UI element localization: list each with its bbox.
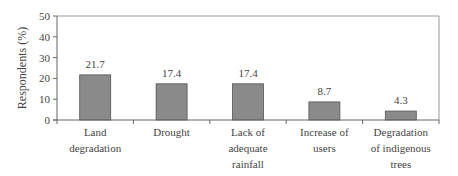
x-category-label-line: degradation	[69, 142, 121, 154]
bar	[385, 111, 416, 120]
y-tick-label: 30	[39, 52, 51, 64]
bar	[156, 84, 187, 120]
x-category-label: Degradationof indigenoustrees	[371, 126, 431, 170]
x-category-label-line: Land	[84, 126, 107, 138]
x-category-label-line: users	[313, 142, 336, 154]
bar-chart: 01020304050 21.717.417.48.74.3 Landdegra…	[0, 0, 458, 176]
bar-value-label: 17.4	[238, 67, 258, 79]
x-category-label-line: Increase of	[300, 126, 349, 138]
x-category-label-line: Lack of	[231, 126, 265, 138]
bar	[80, 75, 111, 120]
x-category-label-line: rainfall	[232, 158, 264, 170]
y-tick-label: 0	[45, 114, 51, 126]
x-category-label: Lack ofadequaterainfall	[228, 126, 267, 170]
bar	[309, 102, 340, 120]
x-category-label-line: adequate	[228, 142, 267, 154]
bars: 21.717.417.48.74.3	[80, 58, 417, 120]
bar-value-label: 21.7	[86, 58, 106, 70]
y-tick-label: 40	[39, 31, 51, 43]
x-category-label-line: Drought	[153, 126, 190, 138]
x-category-label: Landdegradation	[69, 126, 121, 154]
x-axis: LanddegradationDroughtLack ofadequaterai…	[53, 120, 439, 170]
x-category-label-line: of indigenous	[371, 142, 431, 154]
y-tick-label: 50	[39, 10, 51, 22]
x-category-label: Drought	[153, 126, 190, 138]
bar-value-label: 4.3	[394, 94, 408, 106]
bar-value-label: 8.7	[318, 85, 332, 97]
y-tick-label: 10	[39, 93, 51, 105]
x-category-label-line: trees	[390, 158, 411, 170]
y-tick-label: 20	[39, 72, 51, 84]
bar	[233, 84, 264, 120]
x-category-label-line: Degradation	[374, 126, 429, 138]
bar-value-label: 17.4	[162, 67, 182, 79]
y-axis-title: Respondents (%)	[15, 27, 29, 109]
x-category-label: Increase ofusers	[300, 126, 349, 154]
